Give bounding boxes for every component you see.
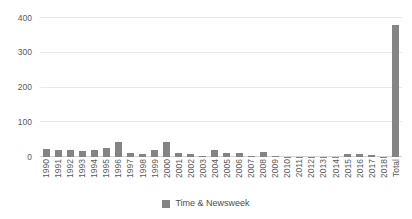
bar[interactable] bbox=[392, 25, 399, 157]
x-tick-label: 2007 bbox=[247, 159, 256, 178]
x-tick-label: 2011 bbox=[295, 159, 304, 177]
bar-slot bbox=[209, 18, 221, 157]
bar[interactable] bbox=[260, 152, 267, 157]
x-tick-slot: 1998 bbox=[137, 159, 149, 195]
bar-slot bbox=[221, 18, 233, 157]
bar[interactable] bbox=[127, 153, 134, 157]
bar-slot bbox=[124, 18, 136, 157]
y-tick-label: 400 bbox=[18, 14, 32, 23]
x-tick-label: 1994 bbox=[90, 159, 99, 178]
x-tick-slot: 2017 bbox=[366, 159, 378, 195]
bar[interactable] bbox=[344, 154, 351, 157]
x-tick-label: 2015 bbox=[343, 159, 352, 178]
bar[interactable] bbox=[139, 154, 146, 157]
x-tick-label: 2005 bbox=[223, 159, 232, 178]
bar[interactable] bbox=[199, 156, 206, 157]
bar-chart: 0100200300400 19901991199219931994199519… bbox=[0, 0, 412, 219]
x-tick-label: 2010 bbox=[283, 159, 292, 178]
bar[interactable] bbox=[236, 153, 243, 157]
bar[interactable] bbox=[368, 155, 375, 157]
bar[interactable] bbox=[67, 150, 74, 157]
bar-slot bbox=[149, 18, 161, 157]
bar-slot bbox=[366, 18, 378, 157]
bar-slot bbox=[112, 18, 124, 157]
x-tick-slot: 2016 bbox=[354, 159, 366, 195]
bar[interactable] bbox=[211, 150, 218, 157]
x-tick-label: 1998 bbox=[138, 159, 147, 178]
bar-series-time-and-newsweek bbox=[40, 18, 402, 157]
bar[interactable] bbox=[187, 154, 194, 157]
x-tick-label: 1999 bbox=[150, 159, 159, 178]
x-tick-slot: 1997 bbox=[124, 159, 136, 195]
bar[interactable] bbox=[223, 153, 230, 157]
x-tick-label: 1992 bbox=[66, 159, 75, 178]
bar[interactable] bbox=[79, 151, 86, 157]
x-tick-slot: 1992 bbox=[64, 159, 76, 195]
x-tick-slot: 1991 bbox=[52, 159, 64, 195]
y-tick-label: 200 bbox=[18, 83, 32, 92]
x-tick-slot: 1996 bbox=[112, 159, 124, 195]
bar-slot bbox=[342, 18, 354, 157]
x-tick-slot: 2010 bbox=[281, 159, 293, 195]
bar-slot bbox=[100, 18, 112, 157]
x-tick-label: 1995 bbox=[102, 159, 111, 178]
x-tick-slot: 2008 bbox=[257, 159, 269, 195]
bar-slot bbox=[257, 18, 269, 157]
x-tick-label: 2014 bbox=[331, 159, 340, 178]
x-tick-slot: 2007 bbox=[245, 159, 257, 195]
bar-slot bbox=[293, 18, 305, 157]
x-tick-slot: 2003 bbox=[197, 159, 209, 195]
bar[interactable] bbox=[115, 142, 122, 157]
y-tick-label: 100 bbox=[18, 118, 32, 127]
x-tick-slot: 2012 bbox=[305, 159, 317, 195]
x-tick-label: 2002 bbox=[187, 159, 196, 178]
x-tick-label: 2013 bbox=[319, 159, 328, 178]
bar-slot bbox=[281, 18, 293, 157]
legend-label: Time & Newsweek bbox=[175, 199, 249, 208]
x-tick-slot: 1999 bbox=[149, 159, 161, 195]
bar-slot bbox=[245, 18, 257, 157]
x-tick-label: 1993 bbox=[78, 159, 87, 178]
bar-slot bbox=[233, 18, 245, 157]
bar-slot bbox=[378, 18, 390, 157]
x-tick-slot: 2011 bbox=[293, 159, 305, 195]
x-tick-label: Total bbox=[392, 159, 401, 177]
bar-slot bbox=[173, 18, 185, 157]
x-tick-slot: 2015 bbox=[342, 159, 354, 195]
x-tick-slot: 1995 bbox=[100, 159, 112, 195]
bar[interactable] bbox=[175, 153, 182, 157]
bar[interactable] bbox=[55, 150, 62, 157]
bar[interactable] bbox=[103, 148, 110, 157]
bar-slot bbox=[76, 18, 88, 157]
x-tick-label: 2001 bbox=[174, 159, 183, 178]
x-tick-slot: 1990 bbox=[40, 159, 52, 195]
bar[interactable] bbox=[356, 154, 363, 157]
x-tick-label: 1997 bbox=[126, 159, 135, 178]
x-tick-slot: 2001 bbox=[173, 159, 185, 195]
bar[interactable] bbox=[91, 150, 98, 157]
bar[interactable] bbox=[43, 149, 50, 157]
bar-slot bbox=[197, 18, 209, 157]
y-axis: 0100200300400 bbox=[0, 18, 36, 157]
x-tick-label: 1996 bbox=[114, 159, 123, 178]
x-tick-slot: 2013 bbox=[317, 159, 329, 195]
x-tick-slot: 1994 bbox=[88, 159, 100, 195]
bar[interactable] bbox=[163, 142, 170, 157]
bar[interactable] bbox=[272, 156, 279, 157]
legend-swatch-icon bbox=[162, 200, 170, 208]
bar[interactable] bbox=[248, 156, 255, 157]
x-tick-slot: 2004 bbox=[209, 159, 221, 195]
bar-slot bbox=[52, 18, 64, 157]
bar-slot bbox=[330, 18, 342, 157]
x-tick-slot: 2005 bbox=[221, 159, 233, 195]
x-tick-label: 2004 bbox=[211, 159, 220, 178]
x-tick-label: 1990 bbox=[42, 159, 51, 178]
x-tick-label: 2008 bbox=[259, 159, 268, 178]
x-tick-slot: 1993 bbox=[76, 159, 88, 195]
bar-slot bbox=[161, 18, 173, 157]
x-tick-label: 2009 bbox=[271, 159, 280, 178]
x-axis: 1990199119921993199419951996199719981999… bbox=[40, 159, 402, 195]
x-tick-label: 2006 bbox=[235, 159, 244, 178]
bar-slot bbox=[64, 18, 76, 157]
bar[interactable] bbox=[151, 150, 158, 157]
